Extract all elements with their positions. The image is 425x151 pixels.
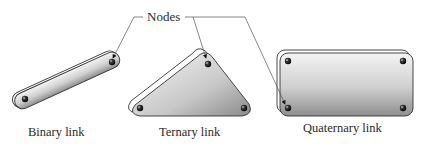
quaternary-link-label: Quaternary link (303, 121, 382, 136)
quaternary-link (277, 50, 413, 116)
diagram-canvas: Nodes Binary link Ternary link Quaternar… (0, 0, 425, 151)
quaternary-node-3 (285, 105, 291, 111)
quaternary-node-2 (400, 58, 406, 64)
ternary-link (128, 49, 250, 116)
ternary-node-2 (137, 105, 143, 111)
binary-node-2 (109, 59, 115, 65)
binary-link (10, 48, 123, 112)
quaternary-node-1 (285, 58, 291, 64)
nodes-callout-label: Nodes (147, 9, 180, 25)
ternary-node-1 (205, 61, 211, 67)
binary-node-1 (22, 96, 28, 102)
binary-link-label: Binary link (28, 125, 85, 140)
ternary-node-3 (241, 105, 247, 111)
quaternary-node-4 (400, 105, 406, 111)
ternary-link-label: Ternary link (159, 125, 220, 140)
